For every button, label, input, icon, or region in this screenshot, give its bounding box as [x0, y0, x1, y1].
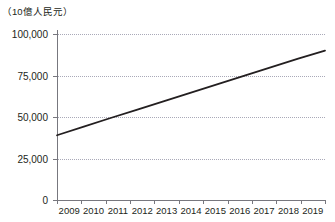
line-chart: （10億人民元） 025,00050,00075,000100,000 2009…: [0, 0, 335, 222]
y-axis-unit-label: （10億人民元）: [2, 4, 73, 18]
x-axis-line: [57, 200, 325, 201]
x-axis-tick-label: 2018: [278, 205, 299, 216]
x-axis-tick-label: 2014: [180, 205, 201, 216]
x-axis-tick-label: 2012: [132, 205, 153, 216]
x-axis-tick-label: 2015: [205, 205, 226, 216]
y-axis-tick-label: 50,000: [17, 112, 48, 123]
x-axis-tick-label: 2017: [254, 205, 275, 216]
x-axis-tick-label: 2011: [108, 205, 128, 216]
plot-area: [57, 34, 325, 200]
y-axis-tick-label: 25,000: [17, 153, 48, 164]
data-series-line: [57, 34, 325, 200]
y-axis-tick-label: 100,000: [12, 29, 48, 40]
y-axis-tick-label: 75,000: [17, 70, 48, 81]
x-axis-tick-label: 2019: [302, 205, 323, 216]
x-axis-tick-label: 2016: [229, 205, 250, 216]
x-axis-tick: [325, 200, 326, 204]
series-polyline: [57, 51, 325, 136]
x-axis-tick-label: 2009: [59, 205, 80, 216]
y-axis-tick-label: 0: [42, 195, 48, 206]
x-axis-tick-label: 2013: [156, 205, 177, 216]
x-axis-tick-label: 2010: [83, 205, 104, 216]
